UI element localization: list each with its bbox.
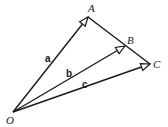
vector-label-b: b: [66, 68, 72, 79]
point-label-a: A: [87, 2, 95, 14]
arrowheads: [80, 17, 150, 70]
arrowhead-a-icon: [80, 17, 88, 26]
arrowhead-c-icon: [140, 64, 150, 71]
origin-label: O: [6, 114, 14, 126]
vector-label-c: c: [82, 79, 88, 90]
vector-diagram: O A B C a b c: [0, 0, 168, 127]
vector-a: [13, 17, 88, 112]
point-label-c: C: [153, 58, 161, 70]
arrowhead-b-icon: [115, 46, 125, 54]
diagram-lines: [13, 17, 150, 112]
vector-label-a: a: [45, 53, 51, 64]
segment-ac: [88, 17, 150, 64]
point-label-b: B: [127, 34, 134, 46]
